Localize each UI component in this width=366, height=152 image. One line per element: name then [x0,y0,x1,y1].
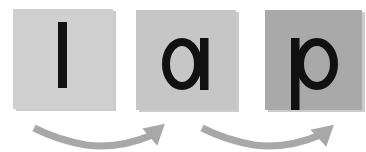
letter-p-glyph [265,10,362,110]
arrow-l-to-a [34,124,169,148]
letter-a-glyph [136,10,236,110]
letter-card-l: l [13,9,113,109]
letter-card-p: p [265,10,362,110]
arrow-a-to-p [202,125,338,150]
letter-l-glyph [13,9,113,109]
letter-card-a: a [136,10,236,110]
